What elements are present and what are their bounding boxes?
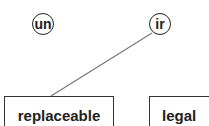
edge-ir-to-replaceable — [51, 33, 152, 96]
node-replaceable: replaceable — [4, 96, 114, 126]
node-legal: legal — [149, 96, 209, 126]
node-replaceable-label: replaceable — [18, 107, 101, 124]
node-legal-label: legal — [162, 107, 196, 124]
node-ir: ir — [149, 13, 171, 35]
node-un: un — [32, 13, 54, 35]
node-un-label: un — [34, 16, 51, 32]
morphology-diagram: un ir replaceable legal — [0, 0, 209, 126]
node-ir-label: ir — [155, 16, 164, 32]
